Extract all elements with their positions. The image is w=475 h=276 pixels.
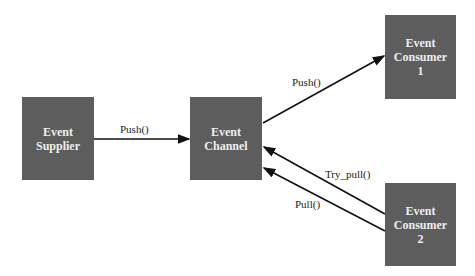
node-label: Channel [204,139,247,153]
edge-consumer2-try-pull [264,147,385,214]
node-label: Event [406,36,436,50]
node-label: Event [43,125,73,139]
node-label: Event [211,125,241,139]
node-label: Event [406,204,436,218]
node-label: Consumer [394,50,447,64]
edge-label-pull: Pull() [295,198,320,210]
edge-label-try-pull: Try_pull() [325,168,370,180]
node-label: Supplier [36,139,80,153]
node-label: 1 [418,64,424,78]
event-supplier-node: EventSupplier [22,97,94,180]
event-consumer-2-node: EventConsumer2 [385,183,456,266]
edge-label-consumer1-push: Push() [292,76,321,88]
event-channel-node: EventChannel [190,97,262,180]
event-consumer-1-node: EventConsumer1 [385,15,456,99]
node-label: Consumer [394,218,447,232]
node-label: 2 [418,232,424,246]
edge-label-supplier-push: Push() [120,123,149,135]
edge-channel-to-consumer1 [263,56,384,123]
